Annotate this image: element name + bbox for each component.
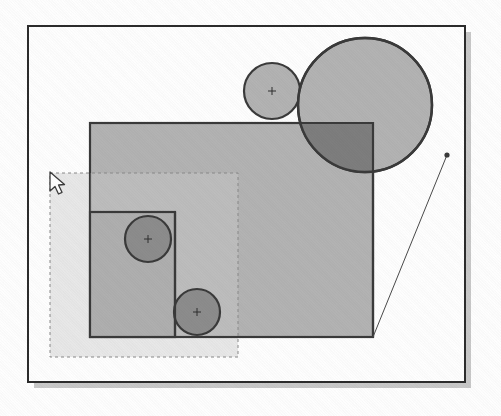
drawing-canvas[interactable] xyxy=(0,0,501,416)
screenshot-stage xyxy=(0,0,501,416)
paper-grain-texture xyxy=(0,0,501,416)
